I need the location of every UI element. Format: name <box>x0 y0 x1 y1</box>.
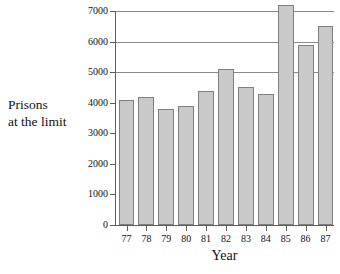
x-tick-label-83: 83 <box>241 233 251 244</box>
x-tick-label-80: 80 <box>181 233 191 244</box>
x-tick-label-82: 82 <box>221 233 231 244</box>
x-tick-84 <box>266 226 267 231</box>
y-tick-label-6000: 6000 <box>88 37 108 47</box>
x-tick-86 <box>306 226 307 231</box>
bar-80 <box>178 106 194 225</box>
x-tick-label-81: 81 <box>201 233 211 244</box>
x-tick-78 <box>146 226 147 231</box>
y-tick-label-3000: 3000 <box>88 128 108 138</box>
bar-81 <box>198 91 214 226</box>
y-tick-label-0: 0 <box>103 220 108 230</box>
bar-78 <box>138 97 154 225</box>
x-tick-label-85: 85 <box>281 233 291 244</box>
x-tick-80 <box>186 226 187 231</box>
x-tick-label-86: 86 <box>301 233 311 244</box>
x-tick-label-77: 77 <box>122 233 132 244</box>
x-tick-label-84: 84 <box>261 233 271 244</box>
y-tick-label-4000: 4000 <box>88 98 108 108</box>
gridline-6000 <box>115 42 334 43</box>
bar-79 <box>158 109 174 225</box>
bar-77 <box>119 100 135 225</box>
x-tick-77 <box>127 226 128 231</box>
x-tick-label-79: 79 <box>161 233 171 244</box>
x-tick-label-87: 87 <box>321 233 331 244</box>
x-tick-79 <box>166 226 167 231</box>
x-tick-85 <box>286 226 287 231</box>
bar-chart-figure: Prisons at the limit 0100020003000400050… <box>0 0 340 274</box>
bar-87 <box>318 26 334 225</box>
bar-82 <box>218 69 234 225</box>
plot-area: 01000200030004000500060007000 7778798081… <box>115 11 334 225</box>
y-tick-label-1000: 1000 <box>88 189 108 199</box>
y-tick-label-7000: 7000 <box>88 6 108 16</box>
bar-86 <box>298 45 314 225</box>
y-axis-line <box>115 11 116 226</box>
x-tick-87 <box>326 226 327 231</box>
y-tick-label-2000: 2000 <box>88 159 108 169</box>
gridline-7000 <box>115 11 334 12</box>
x-tick-83 <box>246 226 247 231</box>
x-axis-line <box>115 225 334 226</box>
y-tick-label-5000: 5000 <box>88 67 108 77</box>
x-axis-title: Year <box>115 248 334 264</box>
bar-84 <box>258 94 274 226</box>
x-tick-label-78: 78 <box>141 233 151 244</box>
x-tick-82 <box>226 226 227 231</box>
x-tick-81 <box>206 226 207 231</box>
bar-83 <box>238 87 254 225</box>
bar-85 <box>278 5 294 225</box>
